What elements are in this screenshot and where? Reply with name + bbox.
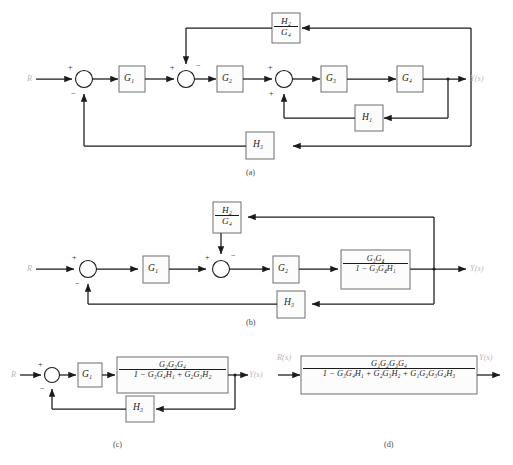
block-g1-c: G₁: [82, 370, 92, 380]
sum2-plus-sign-a: +: [170, 64, 175, 72]
sum1-minus-sign-a: −: [71, 90, 76, 98]
block-g1-a: G₁: [124, 74, 134, 84]
sum1-plus-sign-a: +: [68, 64, 73, 72]
h2-over-g4-denominator-b: G₄: [215, 215, 239, 226]
block-g2-b: G₂: [278, 264, 288, 274]
overall-denominator-d: 1 − G₃G₄H₁ + G₂G₃H₂ + G₁G₂G₃G₄H₃: [303, 368, 475, 378]
g3g4-loop-denominator-b: 1 − G₃G₄H₁: [343, 263, 408, 273]
output-label-a: Y(s): [470, 74, 484, 83]
sum2-plus-sign-b: +: [205, 254, 210, 262]
output-label-d: Y(s): [479, 353, 493, 362]
input-label-a: R: [27, 74, 32, 83]
block-reduced-c: G₂G₃G₄ 1 − G₃G₄H₁ + G₂G₃H₂: [119, 360, 226, 380]
block-g2-a: G₂: [222, 74, 232, 84]
output-label-b: Y(s): [470, 264, 484, 273]
sum2-minus-sign-a: −: [196, 62, 201, 70]
input-label-b: R: [27, 264, 32, 273]
diagram-linework: [0, 0, 513, 465]
caption-c: (c): [113, 440, 122, 449]
caption-a: (a): [246, 168, 255, 177]
sum1-minus-sign-b: −: [75, 280, 80, 288]
sum1-plus-sign-b: +: [72, 254, 77, 262]
sum1-plus-sign-c: +: [38, 361, 43, 369]
input-label-d: R(s): [277, 353, 291, 362]
caption-b: (b): [246, 318, 256, 327]
input-label-c: R: [11, 370, 16, 379]
overall-numerator-d: G₁G₂G₃G₄: [303, 359, 475, 368]
block-h2-over-g4-a: H₂ G₄: [274, 16, 298, 38]
block-diagram-figure: R Y(s) + − + − + + G₁ G₂ G₃ G₄ H₁ H₃ H₂ …: [0, 0, 513, 465]
sum3-plus-bottom-sign-a: +: [269, 90, 274, 98]
block-g3g4-loop-b: G₃G₄ 1 − G₃G₄H₁: [343, 254, 408, 273]
block-g1-b: G₁: [148, 264, 158, 274]
sum2-minus-sign-b: −: [231, 252, 236, 260]
reduced-denominator-c: 1 − G₃G₄H₁ + G₂G₃H₂: [119, 369, 226, 379]
sum3-plus-left-sign-a: +: [268, 64, 273, 72]
block-h1-a: H₁: [362, 113, 372, 123]
h2-over-g4-numerator-b: H₂: [215, 205, 239, 215]
block-overall-transfer-function-d: G₁G₂G₃G₄ 1 − G₃G₄H₁ + G₂G₃H₂ + G₁G₂G₃G₄H…: [303, 359, 475, 379]
h2-over-g4-numerator-a: H₂: [274, 16, 298, 26]
block-h3-c: H₃: [133, 403, 143, 413]
reduced-numerator-c: G₂G₃G₄: [119, 360, 226, 369]
block-h2-over-g4-b: H₂ G₄: [215, 205, 239, 227]
sum1-minus-sign-c: −: [40, 385, 45, 393]
block-h3-a: H₃: [253, 140, 263, 150]
h2-over-g4-denominator-a: G₄: [274, 26, 298, 37]
caption-d: (d): [384, 440, 394, 449]
output-label-c: Y(s): [249, 370, 263, 379]
g3g4-loop-numerator-b: G₃G₄: [343, 254, 408, 263]
block-g3-a: G₃: [326, 74, 336, 84]
block-g4-a: G₄: [402, 74, 412, 84]
block-h3-b: H₃: [284, 298, 294, 308]
